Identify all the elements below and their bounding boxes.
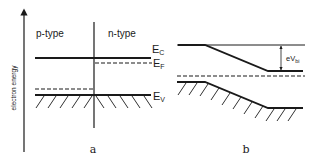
ec-label: EC xyxy=(152,43,164,56)
hatch-b xyxy=(178,83,296,121)
band-diagram: electron energy p-type n-type EC EF EV a xyxy=(0,0,315,164)
panel-a: p-type n-type EC EF EV a xyxy=(35,22,165,156)
caption-b: b xyxy=(242,143,249,156)
caption-a: a xyxy=(90,143,97,156)
ev-label: EV xyxy=(153,90,165,103)
panel-b: eVbi b xyxy=(177,45,305,156)
ef-label: EF xyxy=(153,57,165,70)
p-type-label: p-type xyxy=(36,28,64,39)
energy-axis: electron energy xyxy=(10,12,24,152)
conduction-band-b xyxy=(178,45,303,71)
barrier-label: eVbi xyxy=(286,54,299,64)
valence-band-b xyxy=(177,82,303,108)
n-type-label: n-type xyxy=(108,28,136,39)
y-axis-label: electron energy xyxy=(10,65,18,111)
